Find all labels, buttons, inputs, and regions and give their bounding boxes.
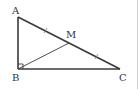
label-c: C (119, 72, 127, 83)
label-m: M (66, 29, 76, 40)
triangle-diagram: A B C M (0, 0, 140, 89)
segment-bm (18, 43, 69, 69)
label-a: A (11, 5, 20, 16)
label-b: B (12, 72, 19, 83)
